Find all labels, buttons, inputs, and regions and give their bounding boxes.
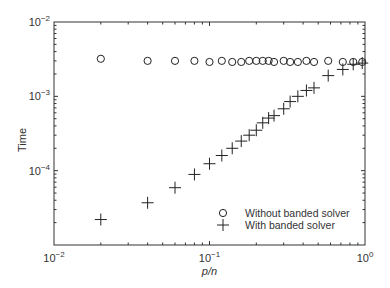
data-point-plus [95,214,107,226]
legend-plus-marker-icon [217,219,229,231]
log-log-scatter-chart: 10−210−1100 10−210−310−4 p/n Time Withou… [0,0,390,288]
data-point-plus [216,149,228,161]
data-point-circle [144,57,151,64]
data-point-circle [270,58,277,65]
data-point-plus [188,168,200,180]
legend: Without banded solver With banded solver [217,207,350,231]
y-axis-label: Time [16,128,28,152]
data-point-plus [204,158,216,170]
x-axis-label: p/n [201,265,217,277]
y-tick-label: 10−2 [29,14,51,28]
series-plus [95,57,368,225]
data-point-plus [278,103,290,115]
data-point-plus [284,96,296,108]
data-point-circle [218,57,225,64]
data-point-plus [235,135,247,147]
data-point-plus [347,58,359,70]
data-point-plus [322,70,334,82]
data-point-circle [325,57,332,64]
legend-circle-marker-icon [219,209,226,216]
chart-canvas: 10−210−1100 10−210−310−4 p/n Time Withou… [0,0,390,288]
data-point-plus [337,63,349,75]
data-point-circle [294,58,301,65]
data-point-plus [226,142,238,154]
series-circle [97,55,366,65]
data-point-circle [310,58,317,65]
x-tick-label: 10−2 [43,250,65,264]
data-point-circle [229,58,236,65]
y-tick-label: 10−3 [29,88,51,102]
data-points [95,55,368,225]
x-tick-label: 100 [357,250,374,264]
data-point-circle [303,57,310,64]
data-point-circle [206,58,213,65]
data-point-circle [238,58,245,65]
data-point-plus [263,112,275,124]
data-point-circle [97,55,104,62]
data-point-plus [300,84,312,96]
data-point-plus [268,110,280,122]
data-point-plus [292,90,304,102]
data-point-circle [246,57,253,64]
data-point-plus [142,197,154,209]
x-tick-label: 10−1 [199,250,221,264]
y-tick-labels: 10−210−310−4 [29,14,51,177]
data-point-plus [257,117,269,129]
x-tick-labels: 10−210−1100 [43,250,374,264]
data-point-plus [356,57,368,69]
data-point-circle [171,57,178,64]
data-point-plus [243,129,255,141]
data-point-plus [308,82,320,94]
data-point-circle [191,57,198,64]
data-point-plus [169,182,181,194]
legend-label-with-banded: With banded solver [245,219,335,231]
data-point-plus [250,124,262,136]
y-tick-label: 10−4 [29,163,51,177]
legend-label-without-banded: Without banded solver [245,207,350,219]
